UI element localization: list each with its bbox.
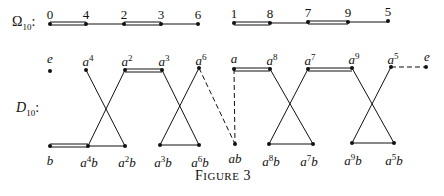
label-exp: 8 [273,52,278,62]
d10-bottom-label: b [47,154,54,167]
figure-diagram [0,0,444,196]
d10-bottom-label: a8b [262,152,280,168]
omega-node-label: 1 [231,7,238,20]
label-base: a [231,51,238,66]
caption-smallcaps: IGURE [203,170,239,182]
caption-number: 3 [243,168,251,183]
omega-symbol: Ω [12,14,22,29]
d10-top-label: a9 [349,50,360,66]
d10-label: D10: [16,100,39,118]
d10-top-label: a5 [388,50,399,66]
label-base: b [47,153,54,168]
label-exp: 5 [394,51,399,61]
d10-top-label: a6 [196,51,207,67]
d10-top-label: a8 [267,51,278,67]
omega-node-label: 6 [195,8,202,21]
d10-bottom-label: a9b [344,151,362,167]
figure-caption: FIGURE 3 [195,168,251,184]
label-suffix: b [91,155,98,170]
omega-colon: : [31,14,35,29]
d10-top-label: e [47,52,53,65]
label-exp: 6 [202,52,207,62]
d10-bottom-label: ab [229,152,242,165]
label-exp: 2 [128,53,133,63]
label-suffix: b [129,155,136,170]
label-exp: 9 [355,51,360,61]
label-suffix: b [396,153,403,168]
d10-bottom-label: a6b [191,153,209,169]
d10-top-label: a3 [159,52,170,68]
label-base: e [424,49,430,64]
label-base: ab [229,151,242,166]
omega-node-label: 7 [305,6,312,19]
omega-node-label: 5 [385,5,392,18]
label-base: e [47,51,53,66]
omega-node-label: 9 [345,6,352,19]
label-suffix: b [311,154,318,169]
omega-label: Ω10: [12,14,35,32]
d10-top-label: a2 [122,52,133,68]
d10-symbol: D [16,100,26,115]
d10-bottom-label: a2b [118,153,136,169]
label-suffix: b [165,155,172,170]
omega-node-label: 8 [267,7,274,20]
d10-top-label: e [424,50,430,63]
omega-node-label: 3 [158,8,165,21]
d10-bottom-label: a7b [300,152,318,168]
d10-edges [50,67,426,147]
label-suffix: b [355,153,362,168]
d10-colon: : [35,100,39,115]
label-exp: 7 [311,52,316,62]
d10-top-label: a4 [83,52,94,68]
omega-node-label: 2 [121,8,128,21]
label-suffix: b [273,154,280,169]
d10-top-label: a7 [305,51,316,67]
d10-bottom-label: a4b [80,153,98,169]
d10-top-label: a [231,52,238,65]
d10-subscript: 10 [26,108,35,118]
omega-nodes [48,19,390,26]
d10-bottom-label: a3b [154,153,172,169]
omega-node-label: 0 [47,8,54,21]
label-exp: 3 [165,53,170,63]
d10-bottom-label: a5b [385,151,403,167]
omega-edges [50,21,388,25]
label-exp: 4 [89,53,94,63]
omega-node-label: 4 [83,8,90,21]
